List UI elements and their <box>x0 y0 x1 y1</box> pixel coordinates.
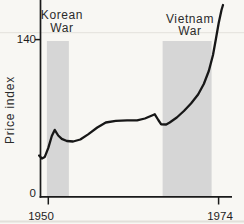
x-tick-label-1950: 1950 <box>28 210 54 222</box>
vietnam-war-label-line2: War <box>178 24 201 38</box>
price-index-chart: 140 0 1950 1974 Korean War Vietnam War P… <box>0 0 244 224</box>
y-tick-label-0: 0 <box>30 187 36 199</box>
chart-canvas: 140 0 1950 1974 Korean War Vietnam War P… <box>0 0 244 224</box>
war-band-0 <box>47 41 69 197</box>
war-band-1 <box>163 41 212 197</box>
x-tick-label-1974: 1974 <box>207 210 233 222</box>
y-axis-title: Price index <box>3 76 17 144</box>
y-tick-label-140: 140 <box>17 33 36 45</box>
korean-war-label-line2: War <box>50 21 73 35</box>
